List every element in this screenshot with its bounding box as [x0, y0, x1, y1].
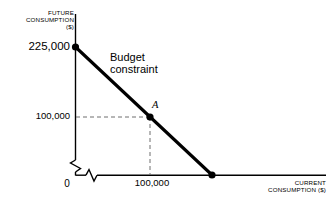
budget-constraint-figure: FUTURE CONSUMPTION ($) CURRENT CONSUMPTI…: [0, 0, 330, 211]
y-axis-tick-label-100000: 100,000: [10, 111, 70, 122]
x-axis-tick-label-100000: 100,000: [122, 178, 182, 189]
x-axis-title: CURRENT CONSUMPTION ($): [248, 180, 326, 194]
y-axis-tick-label-225000: 225,000: [6, 40, 70, 53]
x-axis-break-icon: [86, 170, 97, 182]
y-intercept-marker: [72, 43, 79, 50]
budget-constraint-annotation: Budget constraint: [110, 51, 158, 76]
x-intercept-marker: [208, 171, 215, 178]
y-axis-break-icon: [71, 160, 81, 172]
point-a-annotation: A: [152, 99, 158, 111]
y-axis-title: FUTURE CONSUMPTION ($): [8, 10, 74, 31]
origin-label: 0: [60, 178, 74, 189]
point-a-marker: [146, 113, 153, 120]
